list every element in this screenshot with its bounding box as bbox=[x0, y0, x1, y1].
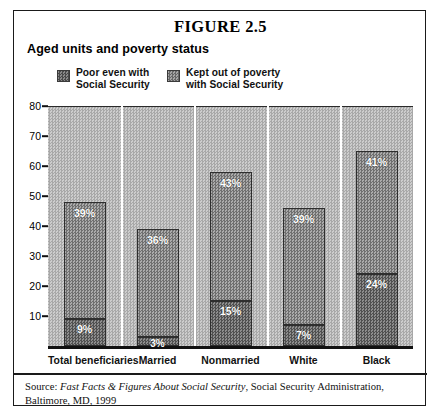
figure-card: FIGURE 2.5 Aged units and poverty status… bbox=[13, 10, 426, 406]
gridline bbox=[121, 106, 123, 346]
bar-segment-poor[interactable]: 3% bbox=[137, 337, 179, 346]
y-tick-label: 60 bbox=[29, 160, 41, 172]
category-label: Black bbox=[340, 355, 413, 366]
y-tick-label: 10 bbox=[29, 310, 41, 322]
source-prefix: Source: bbox=[25, 381, 60, 392]
bar-value-label: 7% bbox=[284, 329, 324, 341]
y-tick-mark bbox=[42, 285, 48, 287]
bar-value-label: 39% bbox=[284, 213, 324, 225]
plot-frame: 1020304050607080 39%9%36%3%43%15%39%7%41… bbox=[48, 106, 413, 346]
category-label: Nonmarried bbox=[194, 355, 267, 366]
bar-segment-kept[interactable]: 43% bbox=[210, 172, 252, 301]
y-tick-label: 80 bbox=[29, 100, 41, 112]
y-tick-label: 50 bbox=[29, 190, 41, 202]
chart-legend: Poor even with Social Security Kept out … bbox=[57, 69, 407, 101]
bar-value-label: 9% bbox=[65, 323, 105, 335]
figure-number: FIGURE 2.5 bbox=[14, 17, 427, 37]
bar-value-label: 15% bbox=[211, 305, 251, 317]
y-tick-mark bbox=[42, 195, 48, 197]
bar-group[interactable]: 39%7% bbox=[283, 208, 325, 346]
y-tick-label: 30 bbox=[29, 250, 41, 262]
y-tick-mark bbox=[42, 135, 48, 137]
x-axis-baseline bbox=[48, 346, 413, 349]
chart-subtitle: Aged units and poverty status bbox=[27, 42, 209, 56]
kept-swatch-icon bbox=[167, 70, 180, 82]
y-tick-mark bbox=[42, 225, 48, 227]
poor-swatch-icon bbox=[57, 70, 70, 82]
bar-value-label: 36% bbox=[138, 234, 178, 246]
bar-segment-kept[interactable]: 36% bbox=[137, 229, 179, 337]
category-label: Total beneficiaries bbox=[48, 355, 121, 366]
source-title: Fast Facts & Figures About Social Securi… bbox=[60, 381, 245, 392]
bar-group[interactable]: 43%15% bbox=[210, 172, 252, 346]
y-tick-mark bbox=[42, 105, 48, 107]
bar-segment-poor[interactable]: 7% bbox=[283, 325, 325, 346]
bar-value-label: 3% bbox=[138, 338, 178, 349]
bar-group[interactable]: 36%3% bbox=[137, 229, 179, 346]
y-tick-label: 70 bbox=[29, 130, 41, 142]
bar-segment-kept[interactable]: 39% bbox=[283, 208, 325, 325]
gridline bbox=[340, 106, 342, 346]
bar-segment-poor[interactable]: 15% bbox=[210, 301, 252, 346]
bar-segment-poor[interactable]: 9% bbox=[64, 319, 106, 346]
bar-value-label: 41% bbox=[357, 156, 397, 168]
y-tick-mark bbox=[42, 315, 48, 317]
bar-segment-poor[interactable]: 24% bbox=[356, 274, 398, 346]
category-label: White bbox=[267, 355, 340, 366]
y-tick-label: 20 bbox=[29, 280, 41, 292]
source-divider bbox=[14, 373, 427, 375]
bar-value-label: 39% bbox=[65, 207, 105, 219]
bar-segment-kept[interactable]: 41% bbox=[356, 151, 398, 274]
legend-label-kept-line1: Kept out of poverty bbox=[186, 67, 306, 79]
legend-label-kept: Kept out of poverty with Social Security bbox=[186, 67, 306, 90]
y-tick-mark bbox=[42, 255, 48, 257]
gridline bbox=[194, 106, 196, 346]
bar-value-label: 43% bbox=[211, 177, 251, 189]
y-tick-mark bbox=[42, 165, 48, 167]
legend-label-kept-line2: with Social Security bbox=[186, 79, 306, 91]
bar-group[interactable]: 41%24% bbox=[356, 151, 398, 346]
category-label: Married bbox=[121, 355, 194, 366]
bar-segment-kept[interactable]: 39% bbox=[64, 202, 106, 319]
source-note: Source: Fast Facts & Figures About Socia… bbox=[25, 380, 417, 407]
bar-group[interactable]: 39%9% bbox=[64, 202, 106, 346]
bar-value-label: 24% bbox=[357, 278, 397, 290]
y-tick-label: 40 bbox=[29, 220, 41, 232]
gridline bbox=[267, 106, 269, 346]
